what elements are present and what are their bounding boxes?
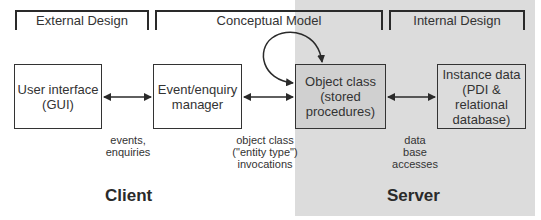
self-loop-arrow <box>263 32 322 83</box>
server-label: Server <box>387 186 440 206</box>
database-accesses-note: data base accesses <box>385 134 445 170</box>
object-invocations-note: object class ("entity type") invocations <box>230 134 300 170</box>
client-label: Client <box>105 186 152 206</box>
connector-arrows <box>0 0 541 220</box>
events-enquiries-note: events, enquiries <box>98 134 158 158</box>
